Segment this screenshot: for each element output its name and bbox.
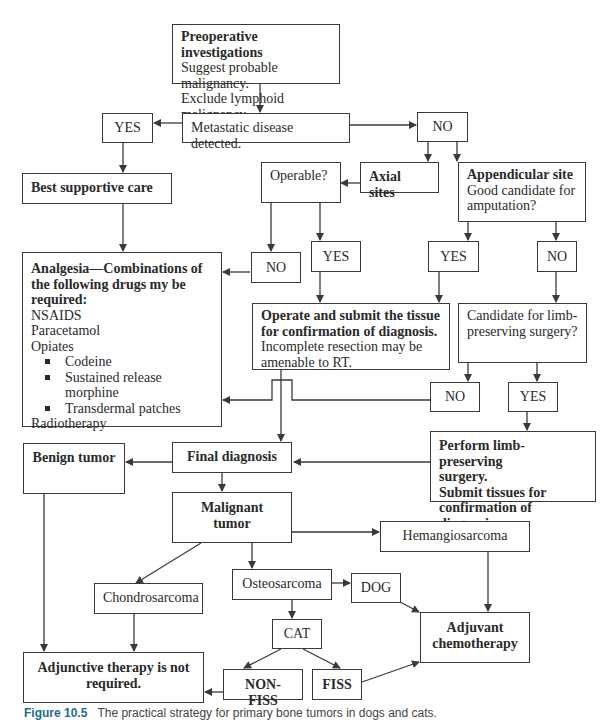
benign-label: Benign tumor (33, 450, 116, 465)
appendicular-line-1: Good candidate for (467, 183, 577, 199)
operable-no-node: NO (251, 252, 301, 283)
preop-title: Preoperative investigations (181, 29, 331, 60)
adjuvant-chemotherapy-node: Adjuvant chemotherapy (420, 612, 530, 663)
opiates-list: Codeine Sustained release morphine Trans… (31, 354, 213, 416)
best-supportive-label: Best supportive care (31, 180, 153, 195)
operate-title-2: for confirmation of diagnosis. (261, 324, 441, 340)
appendicular-title: Appendicular site (467, 167, 577, 183)
opiate-morphine: Sustained release morphine (65, 370, 165, 401)
radiotherapy-label: Radiotherapy (31, 416, 213, 432)
caption-text: The practical strategy for primary bone … (97, 706, 437, 720)
malignant-tumor-node: Malignant tumor (172, 492, 292, 543)
perform-line-2: surgery. (439, 469, 587, 485)
operable-node: Operable? (261, 162, 341, 203)
hemangiosarcoma-node: Hemangiosarcoma (380, 521, 530, 552)
non-fiss-node: NON-FISS (223, 669, 303, 700)
operable-label: Operable? (270, 168, 328, 183)
amputation-yes-node: YES (428, 241, 479, 272)
cat-label: CAT (284, 626, 310, 641)
best-supportive-care-node: Best supportive care (22, 173, 172, 204)
adjunctive-therapy-node: Adjunctive therapy is not required. (23, 652, 204, 703)
yes-label: YES (114, 120, 140, 135)
cat-node: CAT (272, 619, 322, 649)
yes-label: YES (520, 389, 546, 404)
figure-number: Figure 10.5 (24, 706, 87, 720)
limb-candidate-line-2: preserving surgery? (467, 324, 578, 340)
limb-candidate-line-1: Candidate for limb- (467, 308, 578, 324)
perform-line-3: Submit tissues for (439, 485, 587, 501)
drug-paracetamol: Paracetamol (31, 323, 213, 339)
dog-label: DOG (361, 580, 391, 595)
analgesia-title-3: required: (31, 292, 213, 308)
operate-line-1: Incomplete resection may be (261, 339, 441, 355)
analgesia-title-2: the following drugs my be (31, 277, 213, 293)
adjunctive-line-1: Adjunctive therapy is not (32, 660, 195, 676)
operate-submit-node: Operate and submit the tissue for confir… (252, 303, 450, 370)
preop-line-1: Suggest probable malignancy. (181, 60, 331, 91)
malignant-label: Malignant tumor (201, 500, 263, 531)
figure-caption: Figure 10.5 The practical strategy for p… (24, 706, 437, 720)
fiss-label: FISS (322, 677, 352, 692)
metastatic-label: Metastatic disease detected. (191, 120, 341, 151)
no-label: NO (432, 119, 452, 134)
metastatic-no-node: NO (417, 112, 468, 142)
no-label: NO (266, 260, 286, 275)
limb-no-node: NO (430, 382, 480, 412)
preoperative-investigations-node: Preoperative investigations Suggest prob… (172, 24, 340, 84)
opiate-transdermal: Transdermal patches (65, 401, 213, 417)
adjuvant-line-1: Adjuvant (429, 620, 521, 636)
non-fiss-label: NON-FISS (245, 677, 281, 708)
drug-opiates: Opiates (31, 339, 213, 355)
perform-line-1: Perform limb-preserving (439, 438, 587, 469)
limb-yes-node: YES (508, 382, 558, 412)
no-label: NO (445, 389, 465, 404)
axial-sites-node: Axial sites (360, 162, 439, 193)
drug-nsaids: NSAIDS (31, 308, 213, 324)
osteosarcoma-label: Osteosarcoma (242, 576, 321, 591)
operable-yes-node: YES (311, 241, 361, 272)
appendicular-line-2: amputation? (467, 198, 577, 214)
adjuvant-line-2: chemotherapy (429, 636, 521, 652)
final-diagnosis-label: Final diagnosis (187, 449, 277, 464)
operate-line-2: amenable to RT. (261, 355, 441, 371)
adjunctive-line-2: required. (32, 676, 195, 692)
operate-title-1: Operate and submit the tissue (261, 308, 441, 324)
hemangiosarcoma-label: Hemangiosarcoma (403, 528, 508, 543)
metastatic-yes-node: YES (102, 113, 153, 143)
fiss-node: FISS (312, 669, 362, 700)
yes-label: YES (323, 249, 349, 264)
no-label: NO (547, 249, 567, 264)
benign-tumor-node: Benign tumor (23, 443, 125, 494)
osteosarcoma-node: Osteosarcoma (232, 569, 332, 600)
amputation-no-node: NO (537, 241, 577, 272)
yes-label: YES (440, 249, 466, 264)
perform-limb-preserving-node: Perform limb-preserving surgery. Submit … (430, 431, 596, 502)
opiate-codeine: Codeine (65, 354, 213, 370)
metastatic-disease-node: Metastatic disease detected. (182, 113, 350, 143)
chondrosarcoma-label: Chondrosarcoma (103, 590, 199, 605)
analgesia-title-1: Analgesia—Combinations of (31, 261, 213, 277)
chondrosarcoma-node: Chondrosarcoma (94, 583, 203, 614)
final-diagnosis-node: Final diagnosis (172, 442, 292, 473)
appendicular-site-node: Appendicular site Good candidate for amp… (458, 162, 586, 222)
analgesia-node: Analgesia—Combinations of the following … (22, 252, 222, 427)
limb-candidate-node: Candidate for limb- preserving surgery? (458, 303, 587, 363)
dog-node: DOG (351, 573, 401, 603)
